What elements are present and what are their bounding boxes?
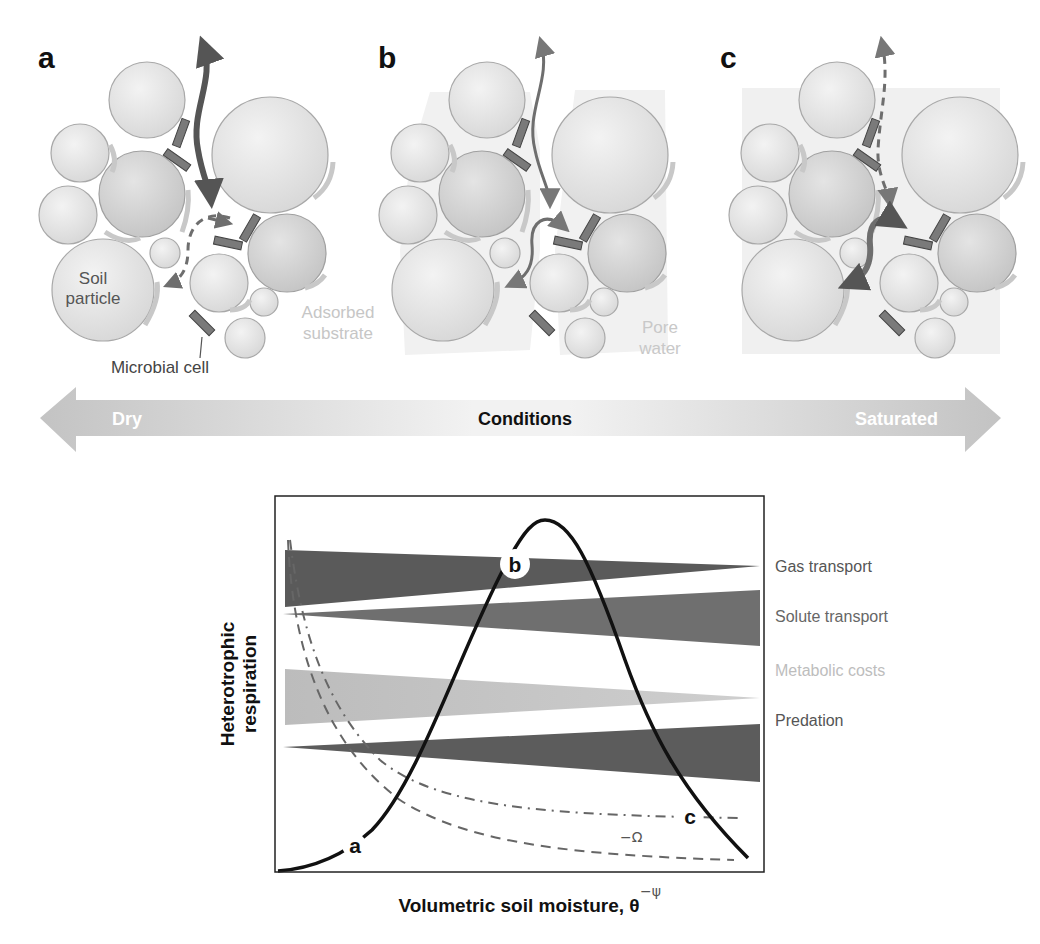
adsorbed-substrate-label-line2: substrate — [303, 324, 373, 343]
microbial-cell-pointer — [200, 337, 202, 358]
dry-label: Dry — [112, 409, 142, 429]
solute-arrowhead-a — [208, 218, 228, 223]
point-label-b: b — [509, 553, 522, 576]
panel-label-b: b — [378, 41, 396, 74]
conditions-label: Conditions — [478, 409, 572, 429]
legend-metabolic-costs: Metabolic costs — [775, 662, 885, 679]
wedge-predation — [283, 724, 760, 782]
panel-label-c: c — [720, 41, 737, 74]
soil-particle-label-line2: particle — [66, 289, 121, 308]
panel-c: c — [720, 41, 1023, 358]
conditions-arrow: Dry Conditions Saturated — [40, 387, 1001, 452]
legend-solute-transport: Solute transport — [775, 608, 889, 625]
soil-particles-a — [39, 62, 333, 358]
saturated-label: Saturated — [855, 409, 938, 429]
legend-gas-transport: Gas transport — [775, 558, 872, 575]
point-label-a: a — [349, 834, 361, 857]
pore-water-label-line2: water — [638, 339, 681, 358]
panel-a: a Soil particle Microbial cell Adsorbed … — [38, 41, 374, 377]
point-label-c: c — [684, 805, 696, 828]
adsorbed-substrate-label-line1: Adsorbed — [302, 303, 375, 322]
y-axis-title-line1: Heterotrophic — [217, 621, 238, 746]
omega-label: −Ω — [620, 829, 643, 845]
respiration-chart: b a c −Ω −ψ Gas transport Solute transpo… — [217, 496, 889, 916]
y-axis-title-line2: respiration — [239, 635, 260, 733]
psi-label: −ψ — [640, 883, 661, 899]
x-axis-title: Volumetric soil moisture, θ — [398, 895, 639, 916]
soil-particle-label-line1: Soil — [79, 269, 107, 288]
wedge-metabolic-costs — [285, 669, 760, 725]
panel-b: b Pore water — [378, 41, 681, 358]
figure-canvas: a Soil particle Microbial cell Adsorbed … — [0, 0, 1040, 944]
pore-water-label-line1: Pore — [642, 318, 678, 337]
legend-predation: Predation — [775, 712, 844, 729]
microbial-cell-label: Microbial cell — [111, 358, 209, 377]
panel-label-a: a — [38, 41, 55, 74]
gas-transport-arrow-a — [196, 44, 211, 200]
